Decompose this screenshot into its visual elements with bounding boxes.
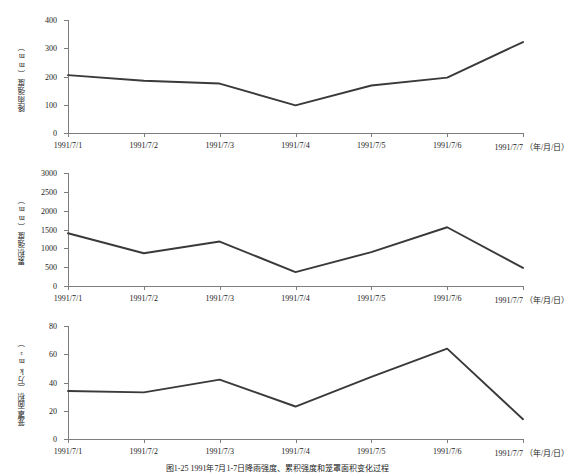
y-axis-tick-label: 0 bbox=[53, 282, 57, 291]
plot-area: 0500100015002000250030001991/7/11991/7/2… bbox=[68, 173, 523, 286]
y-axis-tick-label: 40 bbox=[49, 378, 57, 387]
y-axis-tick-label: 80 bbox=[49, 322, 57, 331]
x-axis-tick bbox=[371, 286, 372, 290]
y-axis-tick: 40 bbox=[64, 383, 68, 384]
x-axis-tick bbox=[296, 133, 297, 137]
figure-caption: 图1-25 1991年7月1-7日降雨强度、累积强度和笼罩面积变化过程 bbox=[0, 462, 555, 473]
x-axis-tick-label: 1991/7/6 bbox=[433, 141, 461, 150]
y-axis-tick: 500 bbox=[64, 267, 68, 268]
y-axis-tick: 400 bbox=[64, 20, 68, 21]
data-line bbox=[68, 42, 523, 105]
y-axis-tick-label: 500 bbox=[45, 263, 57, 272]
x-axis-tick bbox=[296, 286, 297, 290]
y-axis-tick-label: 3000 bbox=[41, 169, 57, 178]
x-axis-tick-label: 1991/7/6 bbox=[433, 447, 461, 456]
x-axis-tick-label: 1991/7/1 bbox=[54, 294, 82, 303]
y-axis-tick-label: 200 bbox=[45, 72, 57, 81]
y-axis-title: 降雨强度（mm） bbox=[14, 18, 30, 136]
x-axis-tick-label: 1991/7/5 bbox=[357, 141, 385, 150]
y-axis-title: 笼罩面积（万km²） bbox=[14, 324, 30, 442]
y-axis-tick: 200 bbox=[64, 77, 68, 78]
x-axis-tick bbox=[144, 133, 145, 137]
data-line bbox=[68, 227, 523, 272]
x-axis-tick-label: 1991/7/2 bbox=[130, 447, 158, 456]
y-axis-tick: 60 bbox=[64, 354, 68, 355]
y-axis-tick: 3000 bbox=[64, 173, 68, 174]
chart-panel-cumulative-intensity: 累积强度（mm） 0500100015002000250030001991/7/… bbox=[0, 157, 555, 309]
x-axis-tick-label: 1991/7/3 bbox=[205, 141, 233, 150]
x-axis-tick-label: 1991/7/4 bbox=[281, 447, 309, 456]
series-line bbox=[68, 173, 523, 286]
y-axis-tick-label: 0 bbox=[53, 435, 57, 444]
x-axis-tick-label: 1991/7/3 bbox=[205, 447, 233, 456]
y-axis-tick: 20 bbox=[64, 411, 68, 412]
y-axis-tick: 2500 bbox=[64, 192, 68, 193]
series-line bbox=[68, 326, 523, 439]
x-axis-tick bbox=[371, 133, 372, 137]
data-line bbox=[68, 349, 523, 420]
x-axis-tick-label: 1991/7/4 bbox=[281, 294, 309, 303]
chart-panel-rainfall-intensity: 降雨强度（mm） 01002003004001991/7/11991/7/219… bbox=[0, 4, 555, 156]
y-axis-tick-label: 1000 bbox=[41, 244, 57, 253]
y-axis-tick: 100 bbox=[64, 105, 68, 106]
x-axis-tick-label: 1991/7/2 bbox=[130, 294, 158, 303]
y-axis-tick-label: 100 bbox=[45, 100, 57, 109]
y-axis-tick: 1500 bbox=[64, 230, 68, 231]
x-axis-tick-label: 1991/7/1 bbox=[54, 141, 82, 150]
x-axis-tick-label: 1991/7/7 （年/月/日） bbox=[495, 141, 569, 152]
y-axis-tick-label: 20 bbox=[49, 406, 57, 415]
y-axis-tick: 2000 bbox=[64, 211, 68, 212]
y-axis-title: 累积强度（mm） bbox=[14, 171, 30, 289]
x-axis-tick-label: 1991/7/7 （年/月/日） bbox=[495, 447, 569, 458]
x-axis-tick-label: 1991/7/6 bbox=[433, 294, 461, 303]
x-axis-tick bbox=[447, 133, 448, 137]
y-axis-tick-label: 2000 bbox=[41, 206, 57, 215]
y-axis-tick-label: 60 bbox=[49, 350, 57, 359]
x-axis-tick bbox=[371, 439, 372, 443]
x-axis-tick-label: 1991/7/3 bbox=[205, 294, 233, 303]
x-axis-tick bbox=[220, 439, 221, 443]
x-axis-tick-label: 1991/7/2 bbox=[130, 141, 158, 150]
y-axis-tick: 1000 bbox=[64, 248, 68, 249]
plot-area: 01002003004001991/7/11991/7/21991/7/3199… bbox=[68, 20, 523, 133]
x-axis-tick bbox=[68, 439, 69, 443]
x-axis-tick bbox=[220, 133, 221, 137]
x-axis-tick bbox=[523, 286, 524, 290]
y-axis-tick-label: 1500 bbox=[41, 225, 57, 234]
x-axis-tick bbox=[144, 439, 145, 443]
chart-panel-coverage-area: 笼罩面积（万km²） 0204060801991/7/11991/7/21991… bbox=[0, 310, 555, 462]
x-axis-tick bbox=[447, 286, 448, 290]
plot-area: 0204060801991/7/11991/7/21991/7/31991/7/… bbox=[68, 326, 523, 439]
x-axis-tick bbox=[296, 439, 297, 443]
y-axis-tick-label: 0 bbox=[53, 129, 57, 138]
y-axis-tick: 80 bbox=[64, 326, 68, 327]
x-axis-tick-label: 1991/7/4 bbox=[281, 141, 309, 150]
x-axis-tick-label: 1991/7/5 bbox=[357, 447, 385, 456]
x-axis-tick-label: 1991/7/1 bbox=[54, 447, 82, 456]
x-axis-tick bbox=[144, 286, 145, 290]
x-axis-tick bbox=[220, 286, 221, 290]
y-axis-tick: 300 bbox=[64, 48, 68, 49]
x-axis-tick-label: 1991/7/5 bbox=[357, 294, 385, 303]
x-axis-tick bbox=[68, 286, 69, 290]
x-axis-tick bbox=[523, 133, 524, 137]
x-axis-tick bbox=[68, 133, 69, 137]
y-axis-tick-label: 300 bbox=[45, 44, 57, 53]
x-axis-tick-label: 1991/7/7 （年/月/日） bbox=[495, 294, 569, 305]
y-axis-tick-label: 2500 bbox=[41, 187, 57, 196]
x-axis-tick bbox=[523, 439, 524, 443]
y-axis-tick-label: 400 bbox=[45, 16, 57, 25]
x-axis-tick bbox=[447, 439, 448, 443]
series-line bbox=[68, 20, 523, 133]
